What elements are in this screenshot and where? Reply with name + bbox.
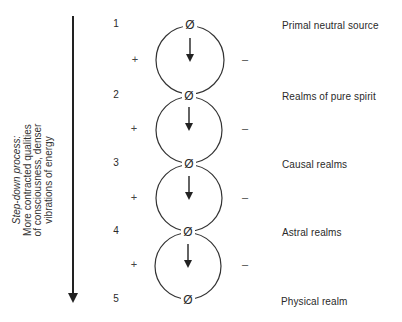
step-down-description: Step-down process: More contracted quali…: [12, 60, 54, 300]
step-down-line-2: of consciousness, denser: [33, 60, 44, 300]
node-symbol-5: Ø: [181, 294, 195, 306]
plus-sign-3: +: [129, 191, 139, 203]
plus-sign-4: +: [129, 258, 139, 270]
plus-sign-2: +: [129, 122, 139, 134]
realm-label-4: Astral realms: [282, 227, 342, 238]
level-number-2: 2: [111, 89, 121, 100]
inner-arrow-icon-4: [184, 244, 192, 268]
plus-sign-1: +: [130, 53, 140, 65]
inner-arrow-icon-3: [185, 176, 193, 200]
inner-arrow-icon-1: [186, 38, 194, 62]
step-down-line-3: vibrations of energy: [44, 60, 55, 300]
level-number-4: 4: [111, 225, 121, 236]
step-down-arrow-icon: [68, 16, 78, 303]
level-number-3: 3: [111, 157, 121, 168]
inner-arrow-icon-2: [185, 107, 193, 131]
step-down-title: Step-down process:: [12, 60, 23, 300]
node-symbol-1: Ø: [183, 19, 197, 31]
minus-sign-1: –: [240, 53, 250, 65]
realm-label-5: Physical realm: [281, 296, 347, 307]
node-symbol-4: Ø: [181, 226, 195, 238]
realm-label-3: Causal realms: [282, 159, 347, 170]
realm-label-2: Realms of pure spirit: [282, 91, 376, 102]
node-symbol-2: Ø: [182, 90, 196, 102]
minus-sign-3: –: [240, 191, 250, 203]
level-number-5: 5: [111, 293, 121, 304]
minus-sign-4: –: [240, 258, 250, 270]
realm-label-1: Primal neutral source: [282, 20, 379, 31]
level-number-1: 1: [111, 18, 121, 29]
minus-sign-2: –: [240, 122, 250, 134]
node-symbol-3: Ø: [182, 158, 196, 170]
